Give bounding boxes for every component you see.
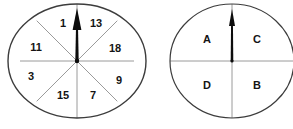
right-needle-hub <box>230 59 233 62</box>
left-sector-label-18: 18 <box>109 42 121 54</box>
left-sector-label-15: 15 <box>57 89 69 101</box>
left-needle-hub <box>75 59 79 63</box>
right-spinner[interactable]: A C B D <box>170 4 293 118</box>
left-sector-label-9: 9 <box>116 74 122 86</box>
left-needle-head-icon <box>73 8 82 30</box>
right-quadrant-label-a: A <box>203 33 211 45</box>
spinner-diagram-canvas: 1 13 18 9 7 15 3 11 A <box>0 0 293 129</box>
left-sector-label-3: 3 <box>28 70 34 82</box>
right-spinner-needle[interactable] <box>229 9 235 63</box>
left-spinner[interactable]: 1 13 18 9 7 15 3 11 <box>8 4 146 118</box>
right-quadrant-label-b: B <box>253 79 261 91</box>
left-sector-label-13: 13 <box>90 17 102 29</box>
right-quadrant-label-c: C <box>253 33 261 45</box>
left-sector-label-7: 7 <box>90 89 96 101</box>
left-spinner-needle[interactable] <box>73 8 82 63</box>
right-needle-head-icon <box>229 9 235 26</box>
right-quadrant-label-d: D <box>203 79 211 91</box>
right-needle-shaft <box>231 20 234 61</box>
spinner-figure: 1 13 18 9 7 15 3 11 A <box>0 0 293 129</box>
left-sector-label-11: 11 <box>30 41 42 53</box>
left-sector-label-1: 1 <box>60 17 66 29</box>
